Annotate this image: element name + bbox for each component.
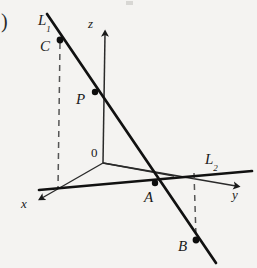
label-axis-x: x [21, 197, 27, 210]
label-l1-subscript: 1 [46, 24, 51, 34]
label-line-l1: L1 [38, 13, 51, 31]
label-point-b: B [178, 239, 187, 254]
point-marker-c [57, 37, 64, 44]
line-l1 [47, 14, 216, 263]
label-point-a: A [144, 190, 153, 205]
axis-x-extension [103, 163, 174, 176]
axis-x-line [42, 163, 103, 198]
dashed-drop-from-c [58, 43, 60, 189]
line-l2 [39, 171, 252, 190]
dashed-drop-to-b [194, 173, 196, 237]
label-axis-y: y [232, 188, 238, 201]
label-axis-z: z [88, 17, 93, 30]
point-marker-b [193, 237, 200, 244]
label-l2-subscript: 2 [213, 163, 218, 173]
label-point-c: C [40, 39, 50, 54]
label-line-l2: L2 [205, 152, 218, 170]
label-point-p: P [76, 92, 85, 107]
point-marker-a [152, 180, 158, 186]
figure-canvas [0, 0, 257, 268]
label-origin: 0 [91, 146, 98, 159]
geometry-figure: ) L1 C z P 0 L2 A x y B [0, 0, 257, 268]
enumeration-paren: ) [1, 11, 8, 31]
point-marker-p [92, 89, 98, 95]
